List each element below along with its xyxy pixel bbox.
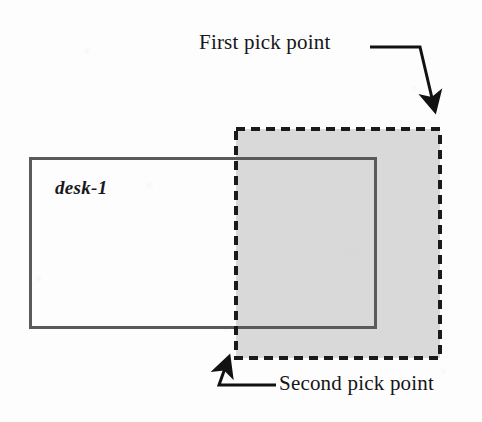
- selection-window-fill: [236, 129, 440, 358]
- second-pick-point-label: Second pick point: [279, 371, 434, 395]
- object-name-label: desk-1: [55, 177, 107, 199]
- figure-canvas: [0, 0, 482, 422]
- second-pick-leader-line: [219, 357, 276, 385]
- first-pick-point-label: First pick point: [199, 30, 331, 54]
- first-pick-leader-line: [370, 47, 435, 111]
- crossing-window-figure: First pick point Second pick point desk-…: [0, 0, 482, 422]
